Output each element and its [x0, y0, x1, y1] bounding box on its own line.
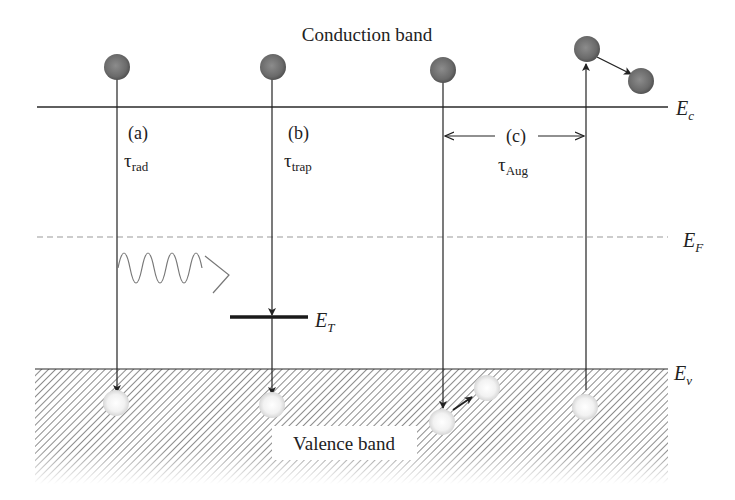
- valence-band-label: Valence band: [293, 433, 395, 454]
- hole-icon: [259, 392, 285, 418]
- process-b-label: (b): [288, 123, 309, 144]
- tau-trap-label: τtrap: [284, 150, 312, 174]
- band-diagram: Conduction band Valence band (a) τrad (b…: [0, 0, 735, 500]
- ef-label: EF: [682, 229, 704, 255]
- tau-rad-label: τrad: [124, 150, 149, 174]
- et-label: ET: [314, 309, 335, 335]
- photon-arrowhead-icon: [205, 256, 229, 293]
- conduction-band-label: Conduction band: [302, 24, 433, 45]
- electron-icon: [104, 54, 130, 80]
- tau-aug-label: τAug: [498, 154, 529, 178]
- photon-icon: [118, 253, 202, 283]
- hole-icon: [474, 375, 500, 401]
- electron-icon: [628, 68, 654, 94]
- ec-label: Ec: [675, 97, 694, 123]
- hole-icon: [429, 409, 455, 435]
- electron-icon: [430, 57, 456, 83]
- process-a-label: (a): [128, 123, 148, 144]
- ev-label: Ev: [673, 362, 692, 388]
- hole-icon: [103, 390, 129, 416]
- hole-icon: [572, 394, 598, 420]
- process-c-label: (c): [506, 126, 526, 147]
- electron-icon: [260, 54, 286, 80]
- electron-scatter-arrow: [597, 57, 631, 74]
- electron-icon: [574, 36, 600, 62]
